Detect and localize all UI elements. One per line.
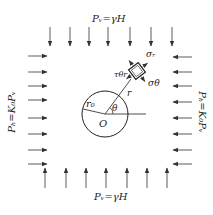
tau-label: τθr (114, 70, 128, 79)
angle-theta-label: θ (112, 103, 118, 113)
sigma-r-arrow-icon (141, 77, 145, 82)
left-load-label: Pₕ=K₀Pᵥ (6, 91, 17, 134)
bottom-load-label: Pᵥ=γH (93, 191, 128, 202)
sigma-theta-label: σθ (148, 78, 160, 88)
radius-r0-line (83, 109, 105, 114)
sigma-theta-arrow-icon (127, 75, 132, 79)
top-load-arrows (50, 27, 172, 46)
tunnel-stress-diagram: Pᵥ=γH Pᵥ=γH (0, 0, 213, 215)
sigma-theta-arrow-icon (143, 63, 148, 67)
bottom-load-arrows (45, 168, 167, 188)
radius-r0-label: r₀ (86, 98, 95, 109)
sigma-r-label: σᵣ (146, 49, 155, 59)
right-load-label: Pₕ=K₀Pᵥ (197, 90, 208, 133)
sigma-r-arrow-icon (129, 61, 133, 66)
origin-label: O (99, 118, 107, 129)
left-load-arrows (28, 56, 47, 164)
radius-r-label: r (127, 88, 132, 98)
right-load-arrows (173, 57, 192, 164)
top-load-label: Pᵥ=γH (91, 13, 126, 24)
